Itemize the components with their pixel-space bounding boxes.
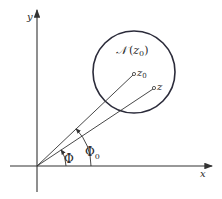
y-axis-label: y <box>26 11 33 22</box>
point-z-label: z <box>156 81 163 92</box>
point-z0-label: z0 <box>136 67 147 80</box>
complex-plane-diagram: x y 𝒩(z0) z0 z Φ Φ0 <box>0 0 222 199</box>
point-z <box>152 86 155 89</box>
neighborhood-label: 𝒩(z0) <box>116 44 148 58</box>
point-z0 <box>132 72 135 75</box>
x-axis-label: x <box>200 168 206 179</box>
angle-phi-label: Φ <box>64 152 74 166</box>
angle-phi0-label: Φ0 <box>85 145 100 161</box>
